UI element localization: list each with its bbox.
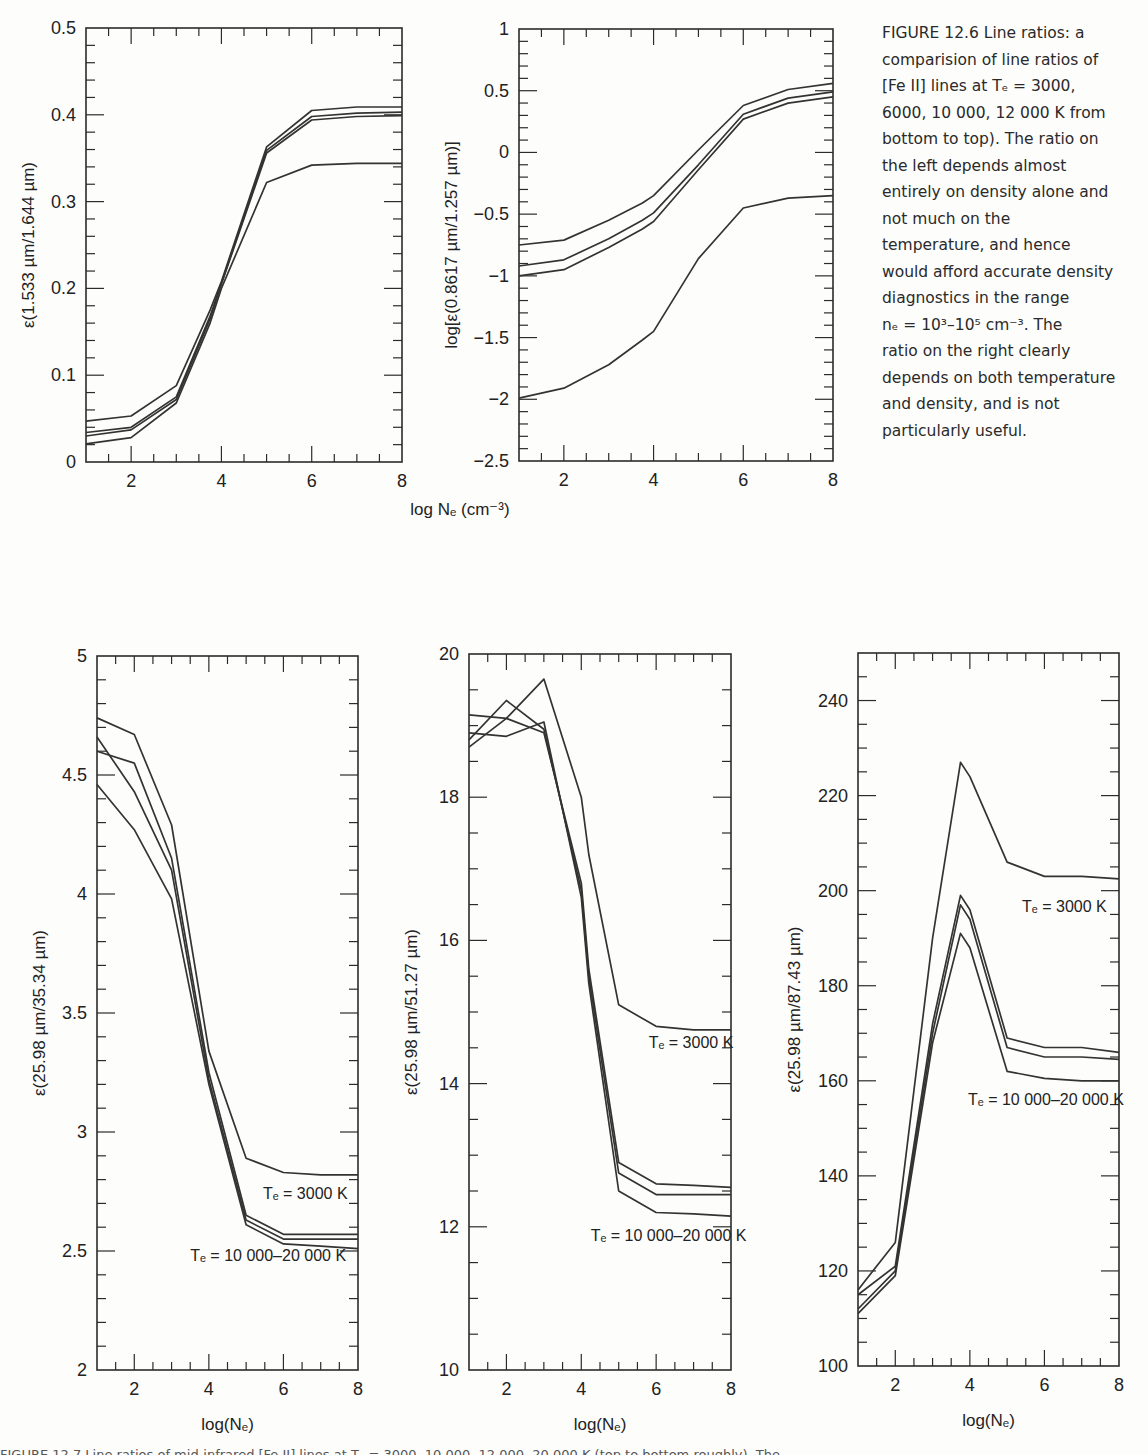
y-tick-label: 10 — [439, 1360, 459, 1380]
x-tick-label: 4 — [649, 470, 659, 490]
plot-fe2-2598-5127-ratio: 2468101214161820ε(25.98 µm/51.27 µm)log(… — [402, 644, 747, 1434]
figure-12-7-caption-partial: FIGURE 12.7 Line ratios of mid-infrared … — [0, 1446, 1148, 1455]
y-tick-label: 2 — [77, 1360, 87, 1380]
x-tick-label: 8 — [397, 471, 407, 491]
y-tick-label: 140 — [818, 1166, 848, 1186]
x-tick-label: 8 — [353, 1379, 363, 1399]
y-tick-label: 12 — [439, 1217, 459, 1237]
x-tick-label: 2 — [501, 1379, 511, 1399]
x-tick-label: 8 — [1114, 1375, 1124, 1395]
series-line — [97, 785, 358, 1249]
annotation-label: Tₑ = 3000 K — [1022, 898, 1107, 915]
y-axis-label: log[ε(0.8617 µm/1.257 µm)] — [442, 141, 461, 349]
y-tick-label: 0.5 — [51, 18, 76, 38]
caption-line: the left depends almost — [882, 153, 1148, 180]
y-tick-label: −2.5 — [473, 451, 509, 471]
caption-line: entirely on density alone and — [882, 179, 1148, 206]
plot-fe2-8617-1257-log-ratio: 2468−2.5−2−1.5−1−0.500.51log[ε(0.8617 µm… — [442, 19, 838, 490]
y-tick-label: 240 — [818, 691, 848, 711]
series-line — [519, 97, 833, 276]
x-tick-label: 6 — [278, 1379, 288, 1399]
y-tick-label: 0.4 — [51, 105, 76, 125]
shared-x-axis-label: log Nₑ (cm⁻³) — [410, 500, 509, 519]
y-tick-label: 3 — [77, 1122, 87, 1142]
series-line — [858, 762, 1119, 1290]
y-tick-label: 3.5 — [62, 1003, 87, 1023]
caption-line: particularly useful. — [882, 418, 1148, 445]
y-tick-label: 220 — [818, 786, 848, 806]
caption-line: FIGURE 12.6 Line ratios: a — [882, 20, 1148, 47]
y-tick-label: 4 — [77, 884, 87, 904]
caption-line: nₑ = 10³–10⁵ cm⁻³. The — [882, 312, 1148, 339]
annotation-label: Tₑ = 10 000–20 000 K — [591, 1227, 747, 1244]
y-tick-label: 16 — [439, 930, 459, 950]
annotation-label: Tₑ = 10 000–20 000 K — [968, 1091, 1124, 1108]
x-axis-label: log(Nₑ) — [962, 1411, 1015, 1430]
x-tick-label: 6 — [1039, 1375, 1049, 1395]
y-axis-label: ε(25.98 µm/35.34 µm) — [30, 930, 49, 1096]
y-tick-label: −1 — [488, 266, 509, 286]
x-tick-label: 2 — [890, 1375, 900, 1395]
caption-line: depends on both temperature — [882, 365, 1148, 392]
y-tick-label: 180 — [818, 976, 848, 996]
x-tick-label: 4 — [576, 1379, 586, 1399]
y-tick-label: −2 — [488, 389, 509, 409]
plot-fe2-2598-8743-ratio: 2468100120140160180200220240ε(25.98 µm/8… — [785, 653, 1124, 1430]
x-axis-label: log(Nₑ) — [201, 1415, 254, 1434]
y-tick-label: 0.3 — [51, 192, 76, 212]
plot-frame — [469, 654, 731, 1370]
caption-line: diagnostics in the range — [882, 285, 1148, 312]
y-tick-label: 160 — [818, 1071, 848, 1091]
caption-line: not much on the — [882, 206, 1148, 233]
y-axis-label: ε(25.98 µm/51.27 µm) — [402, 929, 421, 1095]
series-line — [86, 107, 402, 421]
y-tick-label: 20 — [439, 644, 459, 664]
caption-line: bottom to top). The ratio on — [882, 126, 1148, 153]
y-tick-label: 4.5 — [62, 765, 87, 785]
annotation-label: Tₑ = 3000 K — [263, 1185, 348, 1202]
caption-line: would afford accurate density — [882, 259, 1148, 286]
plot-fe2-1533-1644-ratio: 246800.10.20.30.40.5ε(1.533 µm/1.644 µm) — [19, 18, 407, 491]
series-line — [97, 718, 358, 1175]
caption-line: temperature, and hence — [882, 232, 1148, 259]
y-tick-label: 120 — [818, 1261, 848, 1281]
plot-frame — [519, 29, 833, 461]
y-axis-label: ε(1.533 µm/1.644 µm) — [19, 162, 38, 328]
x-tick-label: 2 — [559, 470, 569, 490]
y-tick-label: 14 — [439, 1074, 459, 1094]
x-tick-label: 6 — [651, 1379, 661, 1399]
y-tick-label: 0 — [499, 142, 509, 162]
series-line — [86, 112, 402, 432]
x-axis-label: log(Nₑ) — [574, 1415, 627, 1434]
x-tick-label: 4 — [204, 1379, 214, 1399]
series-line — [86, 163, 402, 443]
x-tick-label: 8 — [828, 470, 838, 490]
y-tick-label: 0.5 — [484, 81, 509, 101]
series-line — [97, 751, 358, 1234]
caption-line: 6000, 10 000, 12 000 K from — [882, 100, 1148, 127]
x-tick-label: 2 — [126, 471, 136, 491]
x-tick-label: 4 — [216, 471, 226, 491]
caption-line: ratio on the right clearly — [882, 338, 1148, 365]
series-line — [519, 196, 833, 399]
figure-12-6-caption: FIGURE 12.6 Line ratios: a comparision o… — [882, 20, 1148, 444]
plot-frame — [86, 28, 402, 462]
series-line — [469, 722, 731, 1216]
y-tick-label: 2.5 — [62, 1241, 87, 1261]
y-tick-label: −0.5 — [473, 204, 509, 224]
y-tick-label: 0.1 — [51, 365, 76, 385]
series-line — [97, 737, 358, 1239]
x-tick-label: 8 — [726, 1379, 736, 1399]
x-tick-label: 4 — [965, 1375, 975, 1395]
y-tick-label: 18 — [439, 787, 459, 807]
x-tick-label: 2 — [129, 1379, 139, 1399]
y-tick-label: −1.5 — [473, 328, 509, 348]
x-tick-label: 6 — [738, 470, 748, 490]
y-tick-label: 1 — [499, 19, 509, 39]
annotation-label: Tₑ = 10 000–20 000 K — [190, 1247, 346, 1264]
caption-line: and density, and is not — [882, 391, 1148, 418]
y-axis-label: ε(25.98 µm/87.43 µm) — [785, 926, 804, 1092]
y-tick-label: 5 — [77, 646, 87, 666]
annotation-label: Tₑ = 3000 K — [649, 1034, 734, 1051]
plot-fe2-2598-3534-ratio: 246822.533.544.55ε(25.98 µm/35.34 µm)log… — [30, 646, 363, 1434]
